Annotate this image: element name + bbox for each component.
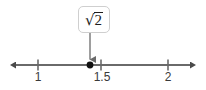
tick-label-1-5: 1.5 (94, 71, 111, 83)
number-line-figure: √2 1 1.5 2 (0, 0, 206, 90)
callout-box-sqrt2: √2 (78, 6, 110, 33)
radicand-value: 2 (94, 12, 104, 28)
tick-label-1: 1 (35, 71, 42, 83)
plotted-point-sqrt2 (87, 62, 94, 69)
tick-label-2: 2 (165, 71, 172, 83)
callout-label: √2 (85, 12, 103, 28)
